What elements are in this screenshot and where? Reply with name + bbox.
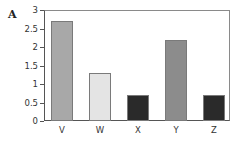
x-tick-label: V <box>51 125 73 135</box>
y-tick-mark <box>40 47 44 48</box>
y-tick-mark <box>40 84 44 85</box>
y-tick-label: 3 <box>8 5 38 15</box>
y-tick-label: 1 <box>8 79 38 89</box>
y-tick-mark <box>40 121 44 122</box>
y-tick-label: 2 <box>8 42 38 52</box>
bar-z <box>203 95 225 121</box>
x-tick-label: Y <box>165 125 187 135</box>
y-tick-label: 1.5 <box>8 61 38 71</box>
x-tick-label: X <box>127 125 149 135</box>
y-tick-label: 0.5 <box>8 98 38 108</box>
x-tick-label: Z <box>203 125 225 135</box>
y-tick-mark <box>40 66 44 67</box>
bar-y <box>165 40 187 121</box>
y-tick-mark <box>40 103 44 104</box>
y-tick-mark <box>40 10 44 11</box>
bar-v <box>51 21 73 121</box>
bar-x <box>127 95 149 121</box>
bar-w <box>89 73 111 121</box>
y-tick-label: 0 <box>8 116 38 126</box>
y-tick-label: 2.5 <box>8 24 38 34</box>
y-tick-mark <box>40 29 44 30</box>
x-tick-label: W <box>89 125 111 135</box>
